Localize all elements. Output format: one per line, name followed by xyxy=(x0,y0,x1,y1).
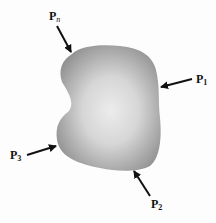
force-arrow-pn xyxy=(57,26,71,52)
force-arrow-p3 xyxy=(27,146,56,155)
force-arrow-p1 xyxy=(161,79,192,87)
label-p3: P3 xyxy=(10,149,21,163)
deformable-body xyxy=(57,45,161,171)
force-body-diagram: Pn P1 P2 P3 xyxy=(0,0,216,223)
label-p2: P2 xyxy=(151,198,162,212)
diagram-graphics xyxy=(0,0,216,223)
force-arrow-p2 xyxy=(134,171,150,196)
label-pn: Pn xyxy=(49,10,60,24)
label-p1: P1 xyxy=(196,73,207,87)
